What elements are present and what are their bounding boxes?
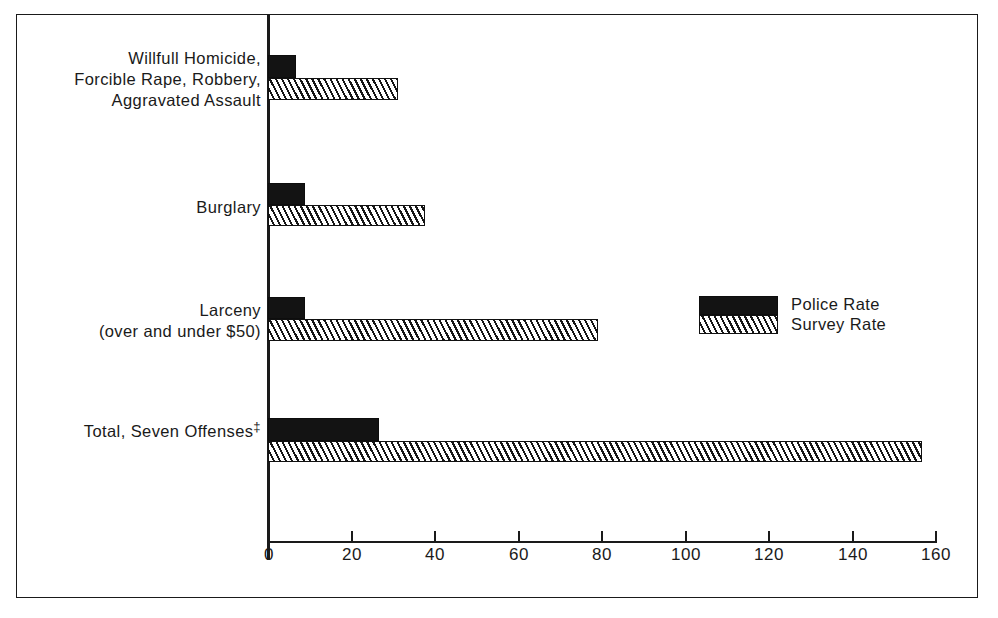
x-tick-5 xyxy=(685,531,687,542)
x-tick-7 xyxy=(852,531,854,542)
x-tick-3 xyxy=(518,531,520,542)
bar-police-burglary xyxy=(268,183,305,205)
category-label-line: Larceny xyxy=(99,300,261,321)
x-tick-label-6: 120 xyxy=(754,545,784,565)
category-label-burglary: Burglary xyxy=(196,197,261,218)
x-tick-label-7: 140 xyxy=(838,545,868,565)
x-tick-6 xyxy=(768,531,770,542)
x-tick-4 xyxy=(601,531,603,542)
x-tick-0 xyxy=(268,531,270,542)
x-tick-label-1: 20 xyxy=(342,545,362,565)
bar-survey-violent-crimes xyxy=(268,78,398,100)
category-label-line: Aggravated Assault xyxy=(74,90,261,111)
x-tick-label-5: 100 xyxy=(671,545,701,565)
x-tick-1 xyxy=(351,531,353,542)
legend-label-survey-rate: Survey Rate xyxy=(791,315,886,334)
bar-police-violent-crimes xyxy=(268,55,296,78)
bar-survey-larceny xyxy=(268,319,598,341)
plot-area: 0 20 40 60 80 100 120 140 160 Willfull H… xyxy=(0,0,998,618)
bar-police-larceny xyxy=(268,297,305,319)
bar-survey-burglary xyxy=(268,205,425,226)
category-label-total-seven-offenses: Total, Seven Offenses‡ xyxy=(84,421,261,442)
chart-legend: Police Rate Survey Rate xyxy=(699,296,939,352)
legend-swatch-police-rate xyxy=(699,296,778,315)
category-label-text: Total, Seven Offenses xyxy=(84,422,254,440)
category-label-larceny: Larceny (over and under $50) xyxy=(99,300,261,342)
x-tick-label-8: 160 xyxy=(921,545,951,565)
legend-label-police-rate: Police Rate xyxy=(791,295,880,314)
legend-swatch-survey-rate xyxy=(699,315,778,334)
category-label-line: Total, Seven Offenses‡ xyxy=(84,421,261,442)
x-tick-8 xyxy=(935,531,937,542)
category-label-line: (over and under $50) xyxy=(99,321,261,342)
category-label-line: Burglary xyxy=(196,197,261,218)
footnote-marker: ‡ xyxy=(253,419,261,434)
category-label-violent-crimes: Willfull Homicide, Forcible Rape, Robber… xyxy=(74,48,261,111)
chart-figure: 0 20 40 60 80 100 120 140 160 Willfull H… xyxy=(0,0,998,618)
bar-police-total-seven-offenses xyxy=(268,418,379,441)
x-tick-2 xyxy=(434,531,436,542)
category-label-line: Willfull Homicide, xyxy=(74,48,261,69)
x-tick-label-3: 60 xyxy=(509,545,529,565)
x-tick-label-2: 40 xyxy=(425,545,445,565)
bar-survey-total-seven-offenses xyxy=(268,441,922,462)
x-tick-label-0: 0 xyxy=(264,545,274,565)
x-tick-label-4: 80 xyxy=(592,545,612,565)
category-label-line: Forcible Rape, Robbery, xyxy=(74,69,261,90)
